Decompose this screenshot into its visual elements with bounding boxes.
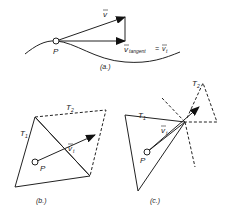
point-p-marker <box>32 159 38 165</box>
point-p-label: P <box>53 47 59 56</box>
vt-arrow <box>35 135 95 162</box>
dashed-boundary-2 <box>185 122 195 167</box>
point-p-marker <box>144 149 150 155</box>
diagram-canvas: P v v tangent = v t (a.) P T 1 T 2 v t (… <box>0 0 231 217</box>
t1-sub: 1 <box>143 115 146 121</box>
t2-sub: 2 <box>70 107 74 113</box>
vt-arrow-alt <box>147 122 185 152</box>
triangle-t1 <box>15 117 90 187</box>
panel-a: P v v tangent = v t (a.) <box>25 10 180 71</box>
panel-b: P T 1 T 2 v t (b.) <box>15 103 106 205</box>
panel-c: P T 1 T 2 v t (c.) <box>125 79 217 205</box>
point-p-label: P <box>40 164 46 173</box>
equals-sign: = <box>155 45 159 52</box>
triangle-t2-dashed <box>35 110 106 176</box>
v-label: v <box>103 10 108 19</box>
vt-sub: t <box>73 148 75 154</box>
point-p-marker <box>53 38 59 44</box>
dashed-boundary-1 <box>162 98 185 122</box>
t1-sub: 1 <box>25 133 28 139</box>
t2-sub: 2 <box>196 83 200 89</box>
caption-a: (a.) <box>100 63 111 71</box>
vt-sub: t <box>166 48 168 54</box>
point-p-label: P <box>140 156 146 165</box>
triangle-t2-dashed <box>185 83 217 122</box>
v-arrow <box>56 17 125 41</box>
caption-b: (b.) <box>36 197 47 205</box>
caption-c: (c.) <box>150 197 160 205</box>
v-tangent-sub: tangent <box>129 48 146 54</box>
